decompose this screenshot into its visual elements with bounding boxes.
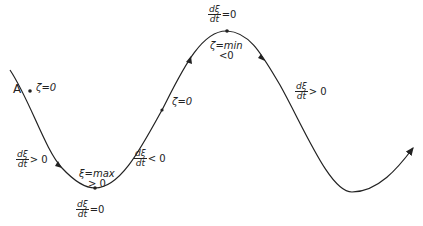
rate-zero-label-top: dξdt=0 — [208, 5, 236, 24]
rate-positive-label-right: dξdt> 0 — [295, 82, 327, 101]
relation: > 0 — [30, 155, 48, 165]
frac-den: dt — [17, 160, 28, 169]
inflection-dot — [160, 108, 163, 111]
max-line2: > 0 — [88, 179, 106, 189]
arrow-icon — [258, 54, 265, 61]
frac-den: dt — [209, 15, 220, 24]
max-dot — [225, 29, 229, 33]
min-label: ζ=min <0 — [210, 41, 243, 61]
min-line2: <0 — [219, 51, 234, 61]
relation: < 0 — [148, 154, 166, 164]
rate-negative-label: dξdt< 0 — [134, 149, 166, 168]
point-a-label: A — [13, 84, 21, 94]
relation: =0 — [222, 10, 237, 20]
relation: =0 — [90, 205, 105, 215]
arrow-icon — [55, 161, 62, 168]
frac-den: dt — [296, 92, 307, 101]
point-a-dot — [28, 89, 32, 93]
zeta-zero-label-a: ζ=0 — [36, 83, 56, 93]
frac-den: dt — [135, 159, 146, 168]
zeta-zero-label-mid: ζ=0 — [172, 97, 192, 107]
frac-den: dt — [77, 210, 88, 219]
rate-positive-label-left: dξdt> 0 — [16, 150, 48, 169]
relation: > 0 — [309, 87, 327, 97]
max-label: ξ=max > 0 — [79, 169, 115, 189]
oscillation-curve — [0, 0, 423, 226]
rate-zero-label-bottom: dξdt=0 — [76, 200, 104, 219]
